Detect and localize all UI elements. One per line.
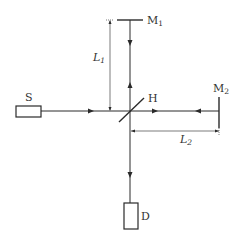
- source-label: S: [25, 91, 33, 104]
- dimension-label-l2: L2: [179, 133, 192, 147]
- beam-arrow-up: [128, 82, 133, 88]
- beam-arrow-right-2: [152, 109, 158, 114]
- beam-splitter: [119, 98, 144, 122]
- mirror-1-label: M1: [147, 14, 163, 28]
- detector-box: [124, 203, 138, 229]
- dimension-arrow-l1-bottom: [109, 107, 112, 111]
- beam-arrow-down-1: [128, 40, 133, 46]
- mirror-2-label: M2: [213, 82, 229, 96]
- beam-arrow-right-1: [88, 109, 94, 114]
- beam-splitter-label: H: [148, 92, 158, 105]
- beam-arrow-down-2: [128, 172, 133, 178]
- dimension-arrow-l2-left: [131, 130, 135, 133]
- detector-label: D: [141, 210, 150, 223]
- interferometer-diagram: S M1 M2 H D L1 L2: [0, 0, 241, 246]
- beam-arrow-left: [195, 109, 201, 114]
- dimension-arrow-l2-right: [215, 130, 219, 133]
- dimension-label-l1: L1: [92, 51, 105, 65]
- source-box: [16, 106, 41, 117]
- dimension-arrow-l1-top: [109, 20, 112, 24]
